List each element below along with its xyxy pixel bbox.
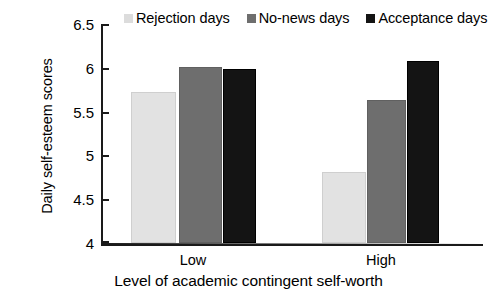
y-tick-mark-6-5 [103, 24, 109, 26]
bar-low-no-news [179, 67, 222, 243]
y-tick-label-5-5: 5.5 [54, 105, 94, 120]
legend-label-no-news-days: No-news days [259, 11, 350, 26]
y-tick-mark-6 [103, 68, 109, 70]
plot-area: Low High [101, 24, 471, 243]
legend-item-rejection-days: Rejection days [124, 11, 230, 26]
y-tick-mark-5 [103, 155, 109, 157]
bar-high-acceptance [407, 61, 439, 243]
bar-low-acceptance [223, 69, 256, 243]
legend-label-acceptance-days: Acceptance days [378, 11, 487, 26]
y-axis-spine [101, 24, 103, 243]
bar-high-no-news [367, 100, 406, 243]
bar-chart-figure: Daily self-esteem scores 6.5 6 5.5 5 4.5… [0, 0, 497, 304]
y-tick-mark-5-5 [103, 112, 109, 114]
legend-item-acceptance-days: Acceptance days [366, 11, 487, 26]
y-tick-mark-4-5 [103, 199, 109, 201]
x-axis-line [101, 243, 483, 246]
legend-swatch-no-news-icon [247, 14, 256, 23]
y-tick-mark-4 [103, 241, 109, 243]
legend-swatch-acceptance-icon [366, 14, 375, 23]
legend-label-rejection-days: Rejection days [136, 11, 230, 26]
x-group-label-high: High [321, 252, 441, 268]
x-axis-title: Level of academic contingent self-worth [0, 272, 497, 290]
y-tick-label-6-5: 6.5 [54, 17, 94, 32]
legend-swatch-rejection-icon [124, 14, 133, 23]
y-tick-label-6: 6 [54, 61, 94, 76]
y-tick-label-4-5: 4.5 [54, 192, 94, 207]
bar-high-rejection [322, 172, 366, 243]
x-group-label-low: Low [133, 252, 253, 268]
bar-low-rejection [131, 92, 176, 244]
y-tick-label-4: 4 [54, 236, 94, 251]
chart-legend: Rejection days No-news days Acceptance d… [124, 11, 487, 26]
y-tick-label-5: 5 [54, 148, 94, 163]
legend-item-no-news-days: No-news days [247, 11, 350, 26]
y-axis-tick-labels: 6.5 6 5.5 5 4.5 4 [52, 0, 94, 304]
